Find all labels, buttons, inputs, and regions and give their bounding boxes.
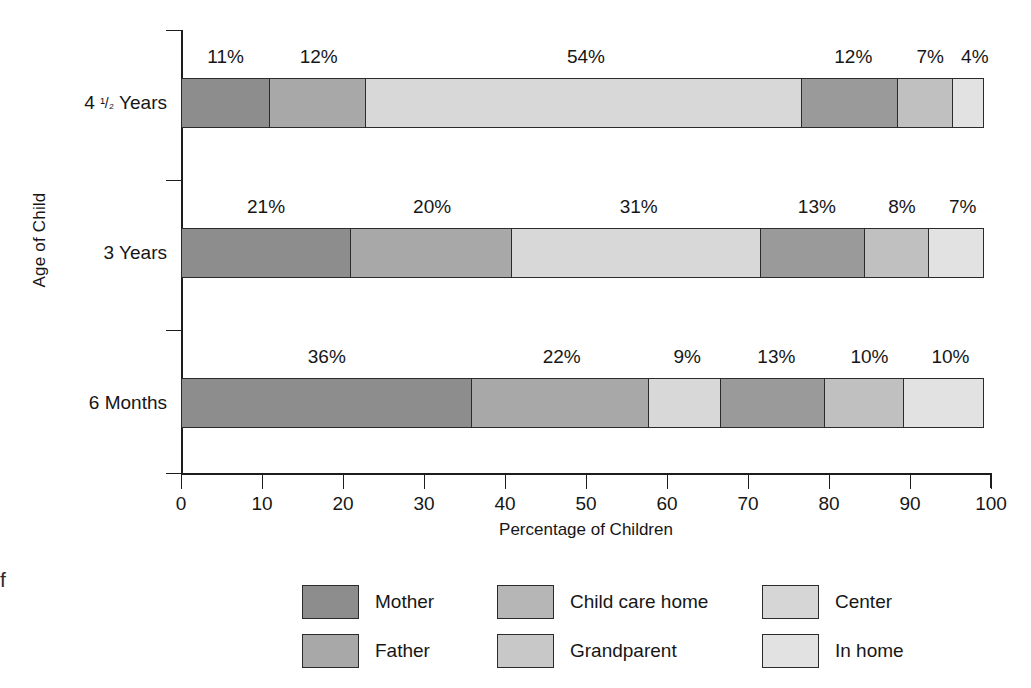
y-axis-top-cap <box>166 30 181 31</box>
legend-item[interactable]: Center <box>762 577 1002 626</box>
bar-segment[interactable] <box>928 228 985 278</box>
bar-segment[interactable] <box>350 228 512 278</box>
bar-segment-value-label: 7% <box>949 196 976 218</box>
x-axis-title: Percentage of Children <box>181 520 991 540</box>
legend-swatch <box>497 585 554 619</box>
x-axis-tick <box>991 474 992 489</box>
x-axis-tick-label: 60 <box>656 493 677 515</box>
stacked-bar[interactable] <box>181 78 984 128</box>
y-axis-title: Age of Child <box>30 160 50 320</box>
bar-segment-value-label: 4% <box>961 46 988 68</box>
legend: MotherChild care homeCenterFatherGrandpa… <box>302 577 1002 675</box>
bar-segment[interactable] <box>864 228 929 278</box>
legend-label: Child care home <box>570 591 708 613</box>
x-axis-tick <box>829 474 830 489</box>
legend-label: Grandparent <box>570 640 677 662</box>
bar-row: 36%22%9%13%10%10% <box>181 378 991 428</box>
category-label: 4 ¹/₂ Years <box>0 92 167 114</box>
x-axis-tick-label: 70 <box>737 493 758 515</box>
bar-segment[interactable] <box>824 378 905 428</box>
bar-segment-value-label: 22% <box>543 346 581 368</box>
bar-segment-value-label: 13% <box>757 346 795 368</box>
bar-segment-value-label: 7% <box>917 46 944 68</box>
bar-segment[interactable] <box>511 228 762 278</box>
x-axis-tick-label: 0 <box>176 493 187 515</box>
legend-label: Mother <box>375 591 434 613</box>
x-axis-tick <box>586 474 587 489</box>
x-axis-tick-label: 40 <box>494 493 515 515</box>
bar-segment-value-label: 10% <box>931 346 969 368</box>
bar-segment-value-label: 31% <box>620 196 658 218</box>
y-axis-tick <box>166 180 181 181</box>
legend-swatch <box>762 634 819 668</box>
stacked-bar[interactable] <box>181 228 984 278</box>
legend-swatch <box>302 585 359 619</box>
plot-area: 0102030405060708090100 11%12%54%12%7%4%2… <box>181 30 991 474</box>
x-axis-tick <box>343 474 344 489</box>
bar-segment-value-label: 54% <box>567 46 605 68</box>
bar-segment-value-label: 10% <box>850 346 888 368</box>
bar-segment[interactable] <box>801 78 898 128</box>
x-axis-tick-label: 80 <box>818 493 839 515</box>
x-axis-tick-label: 50 <box>575 493 596 515</box>
legend-item[interactable]: In home <box>762 626 1002 675</box>
bar-segment-value-label: 12% <box>300 46 338 68</box>
legend-label: Father <box>375 640 430 662</box>
bar-segment[interactable] <box>269 78 366 128</box>
bar-segment[interactable] <box>181 78 270 128</box>
category-label: 3 Years <box>0 242 167 264</box>
x-axis-tick <box>181 474 182 489</box>
stacked-bar[interactable] <box>181 378 984 428</box>
x-axis-tick <box>262 474 263 489</box>
legend-label: Center <box>835 591 892 613</box>
bar-row: 21%20%31%13%8%7% <box>181 228 991 278</box>
bar-segment-value-label: 11% <box>207 46 244 68</box>
bar-segment[interactable] <box>952 78 984 128</box>
y-axis-tick <box>166 330 181 331</box>
legend-swatch <box>497 634 554 668</box>
bar-segment[interactable] <box>720 378 825 428</box>
bar-segment-value-label: 21% <box>247 196 285 218</box>
bar-segment[interactable] <box>760 228 865 278</box>
x-axis-tick-label: 20 <box>332 493 353 515</box>
x-axis-tick <box>910 474 911 489</box>
x-axis-tick <box>667 474 668 489</box>
legend-swatch <box>762 585 819 619</box>
bar-segment[interactable] <box>903 378 984 428</box>
legend-item[interactable]: Child care home <box>497 577 762 626</box>
x-axis-tick-label: 90 <box>899 493 920 515</box>
stacked-bar-chart: f Age of Child 0102030405060708090100 11… <box>0 0 1031 688</box>
bar-segment-value-label: 36% <box>308 346 346 368</box>
bar-segment-value-label: 9% <box>674 346 701 368</box>
x-axis-tick-label: 10 <box>251 493 272 515</box>
legend-item[interactable]: Mother <box>302 577 497 626</box>
bar-row: 11%12%54%12%7%4% <box>181 78 991 128</box>
page-edge-text-fragment: f <box>0 568 8 592</box>
x-axis-tick-label: 100 <box>975 493 1007 515</box>
legend-item[interactable]: Father <box>302 626 497 675</box>
bar-segment-value-label: 8% <box>888 196 915 218</box>
legend-swatch <box>302 634 359 668</box>
legend-label: In home <box>835 640 904 662</box>
x-axis-tick <box>424 474 425 489</box>
bar-segment[interactable] <box>181 228 351 278</box>
bar-segment[interactable] <box>897 78 954 128</box>
bar-segment[interactable] <box>648 378 721 428</box>
bar-segment-value-label: 13% <box>798 196 836 218</box>
x-axis-tick <box>748 474 749 489</box>
bar-segment-value-label: 12% <box>834 46 872 68</box>
x-axis-tick-label: 30 <box>413 493 434 515</box>
category-label: 6 Months <box>0 392 167 414</box>
legend-item[interactable]: Grandparent <box>497 626 762 675</box>
y-axis-tick <box>166 473 181 474</box>
x-axis-tick <box>505 474 506 489</box>
bar-segment[interactable] <box>181 378 473 428</box>
bar-segment[interactable] <box>365 78 802 128</box>
bar-segment-value-label: 20% <box>413 196 451 218</box>
bar-segment[interactable] <box>471 378 649 428</box>
